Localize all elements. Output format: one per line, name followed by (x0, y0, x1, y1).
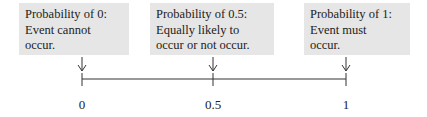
arrow-down-icon (78, 57, 86, 71)
tick-label-1: 1 (343, 97, 350, 113)
tick-label-0: 0 (79, 97, 86, 113)
tick-label-half: 0.5 (205, 97, 221, 113)
arrow-down-icon (342, 57, 350, 71)
arrow-down-icon (209, 57, 217, 71)
